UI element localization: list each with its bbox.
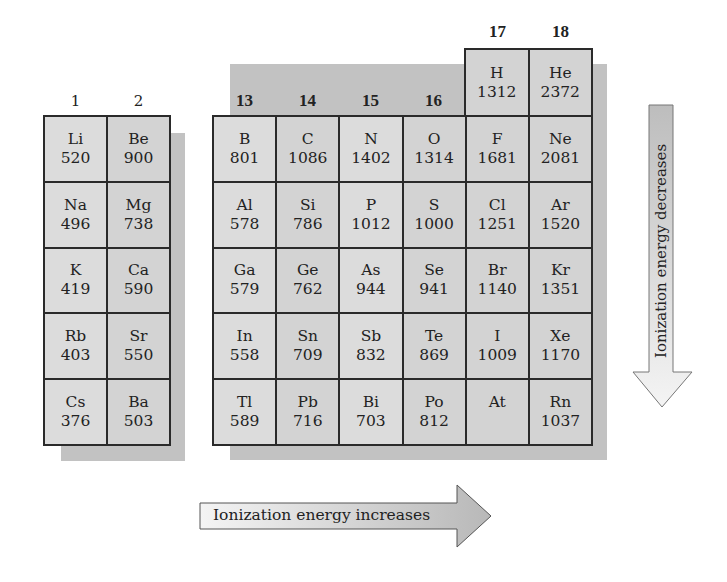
horizontal-arrow-label: Ionization energy increases xyxy=(213,506,430,524)
down-arrow-icon xyxy=(0,0,727,582)
vertical-arrow-label: Ionization energy decreases xyxy=(652,144,670,358)
